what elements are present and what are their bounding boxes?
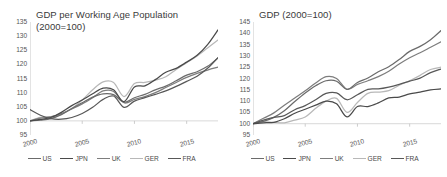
x-tick-label: 2005: [297, 137, 313, 147]
legend-label: UK: [112, 155, 121, 162]
legend-label: GER: [145, 155, 159, 162]
y-tick-label: 110: [234, 97, 250, 104]
chart-panel-right: GDP (2000=100) 9510010511011512012513013…: [223, 0, 446, 177]
series-line-fra: [253, 69, 441, 124]
x-tick-label: 2015: [179, 137, 195, 147]
series-line-ger: [253, 67, 441, 124]
chart-panel-left: GDP per Working Age Population (2000=100…: [0, 0, 223, 177]
y-tick-label: 130: [234, 52, 250, 59]
legend-line-icon: [168, 158, 181, 159]
y-tick-label: 140: [234, 29, 250, 36]
x-tick-label: 2010: [349, 137, 365, 147]
legend-item-ger[interactable]: GER: [353, 155, 382, 162]
legend-line-icon: [251, 158, 264, 159]
series-line-fra: [30, 58, 218, 120]
legend-label: FRA: [406, 155, 419, 162]
y-tick-label: 130: [11, 32, 27, 39]
y-tick-label: 135: [234, 41, 250, 48]
y-tick-label: 105: [11, 103, 27, 110]
plot-area-left: [30, 22, 218, 135]
legend-item-jpn[interactable]: JPN: [60, 155, 87, 162]
series-line-uk: [30, 67, 218, 121]
legend-line-icon: [60, 158, 73, 159]
legend-label: US: [43, 155, 52, 162]
legend-item-fra[interactable]: FRA: [168, 155, 196, 162]
x-tick-label: 2000: [245, 137, 261, 147]
x-tick-label: 2000: [22, 137, 38, 147]
legend-item-us[interactable]: US: [251, 155, 275, 162]
y-tick-label: 100: [11, 117, 27, 124]
legend-label: GER: [368, 155, 382, 162]
y-tick-label: 110: [11, 89, 27, 96]
plot-area-right: [253, 22, 441, 135]
y-tick-label: 105: [234, 108, 250, 115]
series-line-us: [253, 31, 441, 124]
legend-label: US: [266, 155, 275, 162]
legend-item-uk[interactable]: UK: [320, 155, 344, 162]
y-tick-label: 115: [234, 86, 250, 93]
x-tick-label: 2010: [126, 137, 142, 147]
y-tick-label: 95: [11, 131, 27, 138]
y-tick-label: 95: [234, 131, 250, 138]
legend-label: FRA: [183, 155, 196, 162]
plot-svg-left: [30, 22, 218, 135]
legend-label: UK: [335, 155, 344, 162]
y-tick-label: 100: [234, 120, 250, 127]
legend-item-us[interactable]: US: [28, 155, 52, 162]
legend-right: USJPNUKGERFRA: [223, 155, 446, 162]
series-line-jpn: [253, 89, 441, 124]
legend-line-icon: [28, 158, 41, 159]
legend-line-icon: [97, 158, 110, 159]
y-tick-label: 125: [234, 63, 250, 70]
y-tick-label: 120: [11, 60, 27, 67]
y-tick-label: 145: [234, 18, 250, 25]
legend-item-ger[interactable]: GER: [130, 155, 159, 162]
series-line-us: [30, 58, 218, 121]
legend-item-jpn[interactable]: JPN: [283, 155, 310, 162]
legend-line-icon: [320, 158, 333, 159]
y-tick-label: 120: [234, 75, 250, 82]
y-tick-label: 115: [11, 75, 27, 82]
legend-left: USJPNUKGERFRA: [0, 155, 223, 162]
x-tick-label: 2015: [402, 137, 418, 147]
y-tick-label: 125: [11, 46, 27, 53]
legend-line-icon: [283, 158, 296, 159]
figure-root: GDP per Working Age Population (2000=100…: [0, 0, 447, 177]
legend-item-uk[interactable]: UK: [97, 155, 121, 162]
chart-title-right: GDP (2000=100): [259, 9, 429, 21]
legend-item-fra[interactable]: FRA: [391, 155, 419, 162]
x-tick-label: 2005: [74, 137, 90, 147]
legend-line-icon: [391, 158, 404, 159]
legend-label: JPN: [75, 155, 87, 162]
series-line-uk: [253, 42, 441, 124]
legend-label: JPN: [298, 155, 310, 162]
legend-line-icon: [130, 158, 143, 159]
plot-svg-right: [253, 22, 441, 135]
y-tick-label: 135: [11, 18, 27, 25]
legend-line-icon: [353, 158, 366, 159]
